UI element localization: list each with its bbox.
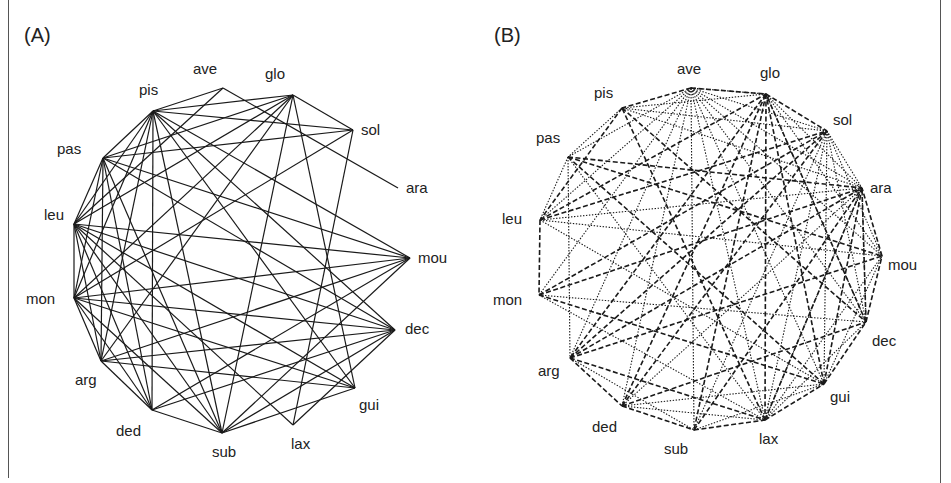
panel-b-dashed-edge-leu-glo (540, 94, 766, 220)
panel-a-node-label-ave: ave (193, 60, 217, 77)
panel-a-edge-pas-leu (74, 158, 103, 224)
panel-a-edge-lax-dec (293, 330, 395, 425)
panel-b-dotted-edge-leu-gui (540, 220, 824, 384)
panel-a-edge-pis-dec (153, 111, 395, 330)
panel-b-dashed-edge-dec-mou (866, 256, 882, 322)
panel-b-dashed-edge-arg-ara (570, 188, 862, 358)
panel-b-node-label-pis: pis (594, 84, 613, 101)
panel-b-dashed-edge-arg-sol (570, 131, 827, 358)
panel-a-node-label-arg: arg (75, 371, 97, 388)
panel-b-dotted-edge-ave-leu (540, 88, 691, 220)
panel-b-dotted-edge-ave-ara (691, 88, 862, 188)
panel-b-dotted-edge-pis-pas (568, 108, 622, 157)
panel-b-dashed-edge-ave-pis (622, 88, 691, 108)
panel-b-dotted-edge-pas-arg (568, 157, 570, 358)
panel-b-node-label-gui: gui (830, 388, 850, 405)
panel-b-node-label-dec: dec (872, 332, 897, 349)
panel-a-edge-mon-arg (74, 298, 101, 361)
panel-a-node-label-sub: sub (212, 443, 236, 460)
panel-b-node-label-glo: glo (760, 64, 780, 81)
network-figure: aveglosolarapispasleumoumondecargguideds… (0, 0, 951, 483)
panel-b-node-label-lax: lax (759, 430, 779, 447)
panel-a-edge-sol-pis (153, 111, 353, 130)
panel-a-edges (74, 88, 410, 433)
panel-b-node-label-mon: mon (493, 291, 522, 308)
panel-b-label: (B) (494, 24, 521, 46)
panel-b-dashed-edge-arg-ded (570, 358, 622, 406)
panel-a-node-label-sol: sol (361, 121, 380, 138)
panel-a-edge-pis-ded (152, 111, 153, 410)
panel-b-dotted-edge-ave-ded (622, 88, 691, 406)
panel-b-dashed-edge-mou-ara (862, 188, 882, 256)
panel-a-node-label-leu: leu (44, 206, 64, 223)
panel-a-edge-ded-sub (152, 410, 222, 433)
panel-b-dotted-edge-mon-dec (539, 295, 866, 322)
panel-b-dashed-edge-ded-sol (622, 131, 827, 406)
panel-b-dashed-edge-leu-mon (539, 220, 540, 295)
panel-a-node-label-pas: pas (57, 140, 81, 157)
panel-a-edge-pis-pas (103, 111, 153, 158)
panel-b-dashed-edge-leu-sol (540, 131, 827, 220)
panel-b-dashed-edge-ded-glo (622, 94, 766, 406)
panel-a-node-label-ded: ded (116, 422, 141, 439)
panel-b-dotted-edge-gui-mou (824, 256, 882, 384)
figure-frame: aveglosolarapispasleumoumondecargguideds… (0, 0, 951, 483)
panel-b-dashed-edge-arg-mou (570, 256, 882, 358)
panel-b-dotted-edge-arg-sub (570, 358, 694, 430)
panel-b-dashed-edge-glo-arg (570, 94, 766, 358)
panel-a-edge-glo-mon (74, 95, 293, 298)
panel-b-node-label-ara: ara (870, 179, 892, 196)
panel-a-edge-pis-mon (74, 111, 153, 298)
panel-a-edge-mon-ded (74, 298, 152, 410)
panel-b-dashed-edge-glo-lax (765, 94, 766, 420)
panel-b-dashed-edge-sub-lax (694, 420, 765, 430)
panel-a-node-label-glo: glo (265, 65, 285, 82)
panel-b-node-label-ded: ded (592, 418, 617, 435)
panel-b-edges (539, 88, 882, 430)
panel-b-dotted-edge-ave-arg (570, 88, 691, 358)
panel-b-dotted-edge-sol-gui (824, 131, 827, 384)
panel-a-label: (A) (24, 24, 51, 46)
panel-b-node-label-ave: ave (677, 60, 701, 77)
panel-a-edge-ave-leu (74, 88, 223, 224)
panel-a-edge-pas-arg (101, 158, 103, 361)
panel-a-node-label-lax: lax (291, 435, 311, 452)
panel-b-node-label-sub: sub (664, 440, 688, 457)
panel-a-edge-pas-ded (103, 158, 152, 410)
panel-a-node-label-ara: ara (406, 179, 428, 196)
panel-b-node-label-leu: leu (502, 210, 522, 227)
panel-a-edge-glo-gui (293, 95, 355, 388)
panel-b-dashed-edge-pis-leu (540, 108, 622, 220)
panel-a-node-label-mou: mou (418, 249, 447, 266)
panel-b-node-label-arg: arg (538, 362, 560, 379)
panel-b-dotted-edge-ave-lax (691, 88, 765, 420)
panel-a-edge-sol-lax (293, 130, 353, 425)
panel-a-edge-ave-ara (223, 88, 398, 188)
panel-a-node-label-gui: gui (359, 396, 379, 413)
panel-a-node-label-pis: pis (139, 81, 158, 98)
panel-a-edge-glo-pis (153, 95, 293, 111)
panel-a-edge-sol-mon (74, 130, 353, 298)
panel-a-edge-pas-sub (103, 158, 222, 433)
panel-b-dotted-edge-ave-mou (691, 88, 882, 256)
panel-b-node-label-sol: sol (833, 111, 852, 128)
panel-b-node-label-mou: mou (888, 256, 917, 273)
panel-a-network: aveglosolarapispasleumoumondecargguideds… (24, 24, 447, 460)
panel-b-node-label-pas: pas (536, 129, 560, 146)
panel-a-node-label-mon: mon (26, 290, 55, 307)
panel-a-node-label-dec: dec (405, 320, 430, 337)
panel-a-edge-mon-mou (74, 258, 410, 298)
panel-a-edge-sub-gui (222, 388, 355, 433)
panel-b-dashed-edge-mon-sol (539, 131, 827, 295)
panel-b-dotted-edge-sol-lax (765, 131, 827, 420)
panel-b-dashed-edge-ave-glo (691, 88, 766, 94)
panel-b-dotted-edge-glo-ara (766, 94, 862, 188)
panel-a-edge-glo-arg (101, 95, 293, 361)
panel-a-edge-glo-pas (103, 95, 293, 158)
panel-b-network: aveglosolarapispasleumoumondecargguideds… (493, 24, 917, 457)
panel-a-edge-ded-mou (152, 258, 410, 410)
panel-b-dotted-edge-lax-dec (765, 322, 866, 420)
